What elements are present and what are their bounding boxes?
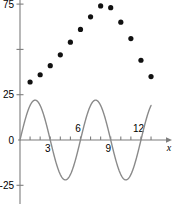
y-axis-tick-label: 0: [8, 135, 14, 146]
y-axis-tick-label: 25: [3, 89, 15, 100]
scatter-point: [88, 14, 93, 19]
y-axis-tick-label: -25: [0, 180, 14, 191]
scatter-chart-figure: -250257536912x: [0, 0, 178, 204]
x-axis-tick-label: 6: [75, 123, 81, 134]
scatter-point: [138, 58, 143, 63]
scatter-point: [27, 79, 32, 84]
y-axis-tick-label: 75: [3, 0, 15, 10]
scatter-point: [108, 5, 113, 10]
scatter-point: [68, 40, 73, 45]
scatter-point: [48, 63, 53, 68]
x-axis-tick-label: 3: [45, 143, 51, 154]
scatter-point: [58, 52, 63, 57]
x-axis-name-label: x: [166, 142, 172, 153]
scatter-point: [148, 74, 153, 79]
chart-canvas: -250257536912x: [0, 0, 178, 204]
x-axis-tick-label: 9: [105, 143, 111, 154]
scatter-series: [27, 3, 153, 84]
scatter-point: [128, 36, 133, 41]
scatter-point: [78, 27, 83, 32]
scatter-point: [98, 3, 103, 8]
scatter-point: [118, 20, 123, 25]
scatter-point: [38, 72, 43, 77]
